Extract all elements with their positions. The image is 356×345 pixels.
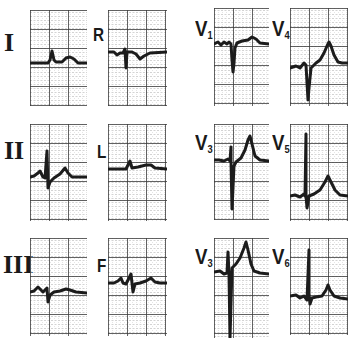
lead-label-iii: III bbox=[3, 252, 33, 278]
ecg-strip-iii bbox=[30, 238, 87, 336]
ecg-grid bbox=[214, 238, 269, 338]
ecg-strip-v3a bbox=[214, 124, 269, 220]
lead-label-r: R bbox=[93, 26, 104, 44]
ecg-strip-v1 bbox=[214, 8, 269, 106]
ecg-grid bbox=[30, 10, 87, 106]
ecg-strip-v6 bbox=[290, 238, 348, 335]
lead-label-ii: II bbox=[4, 138, 24, 164]
ecg-strip-r bbox=[108, 10, 167, 106]
ecg-strip-l bbox=[108, 124, 167, 221]
ecg-trace bbox=[214, 136, 269, 209]
ecg-grid bbox=[30, 238, 87, 336]
ecg-grid bbox=[108, 124, 167, 221]
ecg-grid bbox=[108, 10, 167, 106]
ecg-grid bbox=[214, 8, 269, 106]
lead-label-v1: V1 bbox=[195, 18, 213, 41]
ecg-strip-v4 bbox=[290, 8, 348, 106]
lead-label-v5: V5 bbox=[272, 132, 290, 155]
ecg-strip-ii bbox=[30, 124, 87, 221]
lead-label-v3b: V3 bbox=[195, 246, 213, 269]
ecg-strip-v5 bbox=[290, 124, 348, 221]
ecg-grid bbox=[108, 238, 167, 336]
lead-label-i: I bbox=[4, 30, 14, 56]
ecg-strip-f bbox=[108, 238, 167, 336]
ecg-grid bbox=[290, 238, 348, 335]
ecg-grid bbox=[290, 124, 348, 221]
ecg-grid bbox=[290, 8, 348, 106]
lead-label-f: F bbox=[97, 257, 106, 275]
ecg-strip-i bbox=[30, 10, 87, 106]
ecg-grid bbox=[214, 124, 269, 220]
lead-label-v4: V4 bbox=[272, 18, 290, 41]
lead-label-l: L bbox=[97, 143, 106, 161]
ecg-grid bbox=[30, 124, 87, 221]
lead-label-v6: V6 bbox=[272, 246, 290, 269]
ecg-trace bbox=[108, 49, 167, 68]
lead-label-v3a: V3 bbox=[195, 132, 213, 155]
ecg-strip-v3b bbox=[214, 238, 269, 338]
